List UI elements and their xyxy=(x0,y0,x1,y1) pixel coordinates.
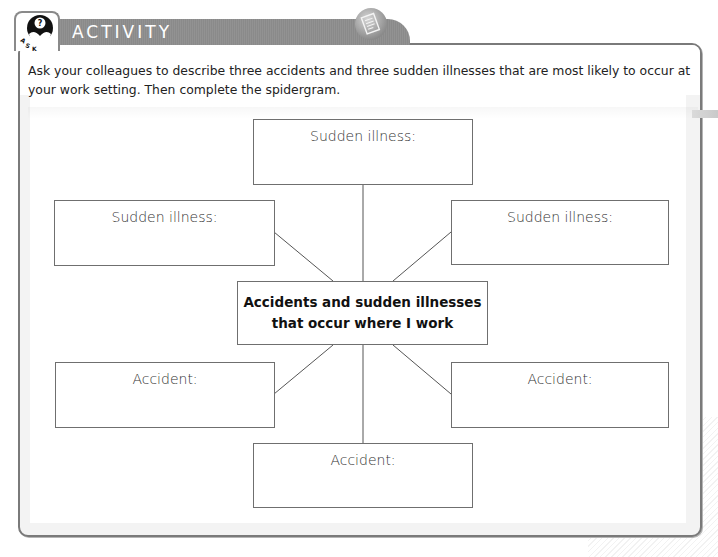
node-bottom-accident[interactable]: Accident: xyxy=(253,443,473,508)
node-label: Sudden illness: xyxy=(254,128,472,144)
node-label: Accident: xyxy=(56,371,274,387)
center-label: Accidents and sudden illnesses that occu… xyxy=(243,292,481,334)
node-lower-right-accident[interactable]: Accident: xyxy=(451,362,669,428)
node-top-sudden-illness[interactable]: Sudden illness: xyxy=(253,119,473,185)
svg-text:S: S xyxy=(25,41,31,49)
node-upper-left-sudden-illness[interactable]: Sudden illness: xyxy=(54,200,275,266)
node-lower-left-accident[interactable]: Accident: xyxy=(55,362,275,428)
page-edge-mark xyxy=(692,110,718,118)
ask-question-icon: ? A S K xyxy=(14,10,60,56)
activity-instructions: Ask your colleagues to describe three ac… xyxy=(28,61,698,99)
scan-shade xyxy=(28,107,698,119)
node-label: Accident: xyxy=(254,452,472,468)
spidergram-center: Accidents and sudden illnesses that occu… xyxy=(237,281,488,345)
svg-text:K: K xyxy=(32,45,37,52)
document-icon xyxy=(353,6,389,42)
svg-text:?: ? xyxy=(38,19,43,28)
node-label: Sudden illness: xyxy=(55,209,274,225)
node-label: Accident: xyxy=(452,371,668,387)
node-label: Sudden illness: xyxy=(452,209,668,225)
activity-title: ACTIVITY xyxy=(72,21,172,43)
node-upper-right-sudden-illness[interactable]: Sudden illness: xyxy=(451,200,669,265)
